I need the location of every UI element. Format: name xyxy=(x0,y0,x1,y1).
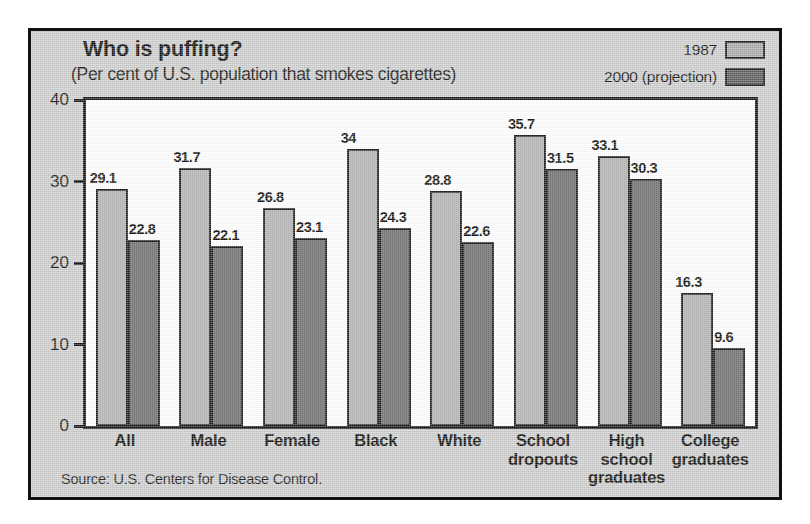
bar-1987 xyxy=(430,191,462,426)
x-axis-label-line: Black xyxy=(334,431,418,450)
bar-value-label: 16.3 xyxy=(675,274,702,290)
bar-value-label: 22.1 xyxy=(212,227,239,243)
y-axis-tick-mark xyxy=(74,180,83,183)
x-axis-label-line: graduates xyxy=(585,468,669,487)
y-axis-tick-mark xyxy=(74,262,83,265)
bar-1987 xyxy=(681,293,713,426)
legend-swatch-1987 xyxy=(725,41,765,59)
bar-value-label: 31.5 xyxy=(547,150,574,166)
bar-series-container: 29.122.831.722.126.823.13424.328.822.635… xyxy=(86,100,755,426)
x-axis-label-line: High xyxy=(585,431,669,450)
bar-2000 xyxy=(546,169,578,426)
bar-value-label: 35.7 xyxy=(508,116,535,132)
x-axis-label: Collegegraduates xyxy=(668,431,752,468)
chart-title: Who is puffing? xyxy=(83,37,242,62)
y-axis-tick-label: 40 xyxy=(50,90,69,110)
bar-group: 3424.3 xyxy=(347,100,411,426)
bar-group: 16.39.6 xyxy=(681,100,745,426)
x-axis-label-line: College xyxy=(668,431,752,450)
bar-value-label: 28.8 xyxy=(424,172,451,188)
bar-1987 xyxy=(179,168,211,426)
bar-value-label: 26.8 xyxy=(257,189,284,205)
x-axis-label-line: school xyxy=(585,450,669,469)
bar-value-label: 33.1 xyxy=(592,137,619,153)
x-axis-label-line: dropouts xyxy=(501,450,585,469)
x-axis-label-line: School xyxy=(501,431,585,450)
bar-value-label: 29.1 xyxy=(90,170,117,186)
x-axis-label-line: Female xyxy=(250,431,334,450)
bar-group: 33.130.3 xyxy=(598,100,662,426)
bar-2000 xyxy=(128,240,160,426)
bar-1987 xyxy=(514,135,546,426)
x-axis-label-line: All xyxy=(83,431,167,450)
bar-group: 35.731.5 xyxy=(514,100,578,426)
bar-value-label: 22.8 xyxy=(129,221,156,237)
bar-value-label: 31.7 xyxy=(173,149,200,165)
bar-2000 xyxy=(211,246,243,426)
legend-item-1987: 1987 xyxy=(604,37,765,62)
y-axis-tick-mark xyxy=(74,343,83,346)
bar-value-label: 9.6 xyxy=(714,329,733,345)
x-axis-label: All xyxy=(83,431,167,450)
y-axis-tick-label: 30 xyxy=(50,172,69,192)
x-axis-label: Schooldropouts xyxy=(501,431,585,468)
x-axis-label-line: graduates xyxy=(668,450,752,469)
x-axis-label: Male xyxy=(167,431,251,450)
bar-2000 xyxy=(462,242,494,426)
chart-source: Source: U.S. Centers for Disease Control… xyxy=(61,471,322,487)
bar-2000 xyxy=(630,179,662,426)
bar-value-label: 24.3 xyxy=(380,209,407,225)
y-axis-tick-mark xyxy=(74,99,83,102)
chart-legend: 1987 2000 (projection) xyxy=(604,37,765,91)
x-axis-label: Highschoolgraduates xyxy=(585,431,669,487)
bar-value-label: 23.1 xyxy=(296,219,323,235)
bar-group: 28.822.6 xyxy=(430,100,494,426)
y-axis-tick-mark xyxy=(74,425,83,428)
bar-2000 xyxy=(713,348,745,426)
x-axis-label-line: Male xyxy=(167,431,251,450)
x-axis-label: Female xyxy=(250,431,334,450)
y-axis: 010203040 xyxy=(31,97,83,429)
chart-subtitle: (Per cent of U.S. population that smokes… xyxy=(71,64,456,85)
y-axis-tick-label: 0 xyxy=(60,416,69,436)
bar-2000 xyxy=(379,228,411,426)
bar-1987 xyxy=(347,149,379,426)
x-axis-label-line: White xyxy=(418,431,502,450)
legend-item-2000: 2000 (projection) xyxy=(604,64,765,89)
bar-1987 xyxy=(598,156,630,426)
bar-value-label: 30.3 xyxy=(631,160,658,176)
y-axis-tick-label: 10 xyxy=(50,335,69,355)
legend-label-2000: 2000 (projection) xyxy=(604,68,717,86)
bar-group: 26.823.1 xyxy=(263,100,327,426)
bar-1987 xyxy=(96,189,128,426)
x-axis-label: White xyxy=(418,431,502,450)
chart-panel: Who is puffing? (Per cent of U.S. popula… xyxy=(28,28,782,500)
legend-label-1987: 1987 xyxy=(683,41,717,59)
legend-swatch-2000 xyxy=(725,68,765,86)
bar-value-label: 34 xyxy=(341,130,356,146)
bar-value-label: 22.6 xyxy=(463,223,490,239)
bar-1987 xyxy=(263,208,295,426)
bar-group: 29.122.8 xyxy=(96,100,160,426)
bar-2000 xyxy=(295,238,327,426)
x-axis-label: Black xyxy=(334,431,418,450)
y-axis-tick-label: 20 xyxy=(50,253,69,273)
bar-group: 31.722.1 xyxy=(179,100,243,426)
